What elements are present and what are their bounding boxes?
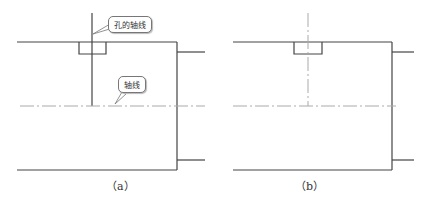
callout-pointer-axis — [115, 92, 126, 104]
figure-a-drawing — [17, 13, 205, 170]
caption-b: （b） — [295, 177, 324, 193]
diagram-canvas — [0, 0, 426, 204]
callout-hole-axis: 孔的轴线 — [108, 16, 152, 33]
caption-a: （a） — [106, 177, 135, 193]
callout-axis: 轴线 — [118, 76, 146, 93]
